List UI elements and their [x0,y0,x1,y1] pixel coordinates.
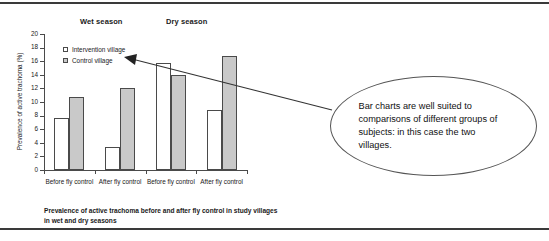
figure-caption: Prevalence of active trachoma before and… [44,206,279,225]
legend-swatch-intervention-village [63,47,68,52]
y-tick [40,116,44,117]
group-header-dry-season: Dry season [166,17,207,26]
bar [120,88,135,170]
bar [222,56,237,170]
y-tick-label: 8 [34,112,38,118]
y-tick [40,143,44,144]
x-category-label: Before fly control [41,178,97,186]
top-divider [0,2,549,4]
bar [54,118,69,170]
y-tick-label: 16 [31,58,38,64]
x-tick [95,170,96,174]
bottom-divider [0,228,549,230]
y-tick [40,88,44,89]
chart-legend: Intervention village Control village [63,45,125,67]
y-tick-label: 10 [31,99,38,105]
y-tick-label: 14 [31,72,38,78]
x-category-label: Before fly control [143,178,199,186]
legend-item-intervention-village: Intervention village [63,45,125,54]
y-tick [40,129,44,130]
y-tick [40,48,44,49]
y-axis-label: Prevalence of active trachoma (%) [16,47,23,157]
callout-bubble: Bar charts are well suited to comparison… [330,76,537,176]
legend-item-control-village: Control village [63,56,125,65]
x-tick [146,170,147,174]
bar [156,63,171,170]
figure-page: Wet season Dry season Prevalence of acti… [0,0,549,241]
y-tick-label: 4 [34,140,38,146]
group-header-wet-season: Wet season [80,17,123,26]
y-tick-label: 6 [34,126,38,132]
y-tick [40,75,44,76]
y-tick-label: 20 [31,31,38,37]
bar-chart-figure: Wet season Dry season Prevalence of acti… [0,6,290,228]
y-tick [40,156,44,157]
x-category-label: After fly control [194,178,250,186]
y-tick [40,34,44,35]
y-tick-label: 0 [34,167,38,173]
x-tick [44,170,45,174]
legend-label-intervention-village: Intervention village [72,46,125,53]
y-tick-label: 12 [31,85,38,91]
bar [69,97,84,170]
bar [207,110,222,170]
x-category-label: After fly control [92,178,148,186]
bar [171,75,186,170]
x-tick [196,170,197,174]
legend-label-control-village: Control village [72,57,113,64]
y-tick-label: 18 [31,44,38,50]
legend-swatch-control-village [63,58,68,63]
y-tick [40,61,44,62]
y-axis-line [44,34,45,170]
bar [105,147,120,170]
y-tick-label: 2 [34,153,38,159]
y-tick [40,102,44,103]
x-tick [247,170,248,174]
callout-text: Bar charts are well suited to comparison… [359,100,509,152]
